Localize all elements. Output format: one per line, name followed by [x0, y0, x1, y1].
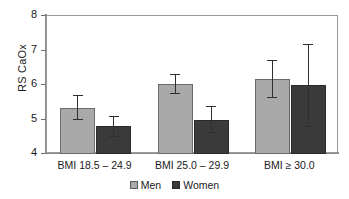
error-bar-cap-bottom: [73, 119, 83, 120]
error-bar-men-group-3: [255, 60, 290, 98]
legend-swatch-women-icon: [172, 181, 180, 189]
chart-figure: RS CaOx 45678 BMI 18.5 – 24.9BMI 25.0 – …: [0, 0, 349, 199]
legend-label-women: Women: [183, 180, 219, 191]
bar-men-group-2: [158, 84, 193, 154]
error-bar-stem: [77, 95, 78, 121]
legend-label-men: Men: [141, 180, 161, 191]
error-bar-cap-bottom: [109, 136, 119, 137]
legend-item-women: Women: [172, 180, 219, 191]
error-bar-men-group-1: [60, 95, 95, 121]
y-axis-title: RS CaOx: [16, 0, 32, 148]
y-tick-label-4: 4: [23, 147, 37, 158]
error-bar-stem: [113, 116, 114, 137]
legend-item-men: Men: [130, 180, 161, 191]
error-bar-cap-bottom: [303, 126, 313, 127]
error-bar-stem: [308, 44, 309, 127]
error-bar-women-group-1: [96, 116, 131, 137]
error-bar-cap-bottom: [170, 93, 180, 94]
error-bar-cap-top: [170, 74, 180, 75]
error-bar-cap-bottom: [267, 97, 277, 98]
error-bar-cap-top: [267, 60, 277, 61]
y-tick-label-6: 6: [23, 78, 37, 89]
y-tick-4: [41, 153, 46, 154]
error-bar-stem: [175, 74, 176, 94]
error-bar-cap-top: [303, 44, 313, 45]
error-bar-women-group-3: [291, 44, 326, 127]
error-bar-women-group-2: [194, 106, 229, 133]
error-bar-cap-top: [206, 106, 216, 107]
error-bar-stem: [272, 60, 273, 98]
error-bar-men-group-2: [158, 74, 193, 94]
plot-area: [46, 15, 338, 153]
error-bar-cap-bottom: [206, 132, 216, 133]
y-tick-label-7: 7: [23, 44, 37, 55]
y-tick-label-5: 5: [23, 113, 37, 124]
legend-swatch-men-icon: [130, 181, 138, 189]
y-tick-label-8: 8: [23, 9, 37, 20]
x-axis-label-group-3: BMI ≥ 30.0: [229, 159, 349, 171]
error-bar-cap-top: [73, 95, 83, 96]
chart-legend: MenWomen: [0, 180, 349, 191]
error-bar-cap-top: [109, 116, 119, 117]
error-bar-stem: [211, 106, 212, 133]
